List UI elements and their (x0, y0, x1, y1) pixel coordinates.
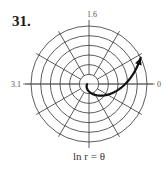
chart-caption: ln r = θ (73, 150, 105, 162)
axis-label-top: 1.6 (87, 10, 97, 19)
polar-chart: 1.6 0 3.1 ln r = θ (0, 0, 168, 175)
polar-grid (23, 20, 155, 148)
axis-label-right: 0 (157, 80, 161, 89)
axis-label-left: 3.1 (11, 80, 21, 89)
